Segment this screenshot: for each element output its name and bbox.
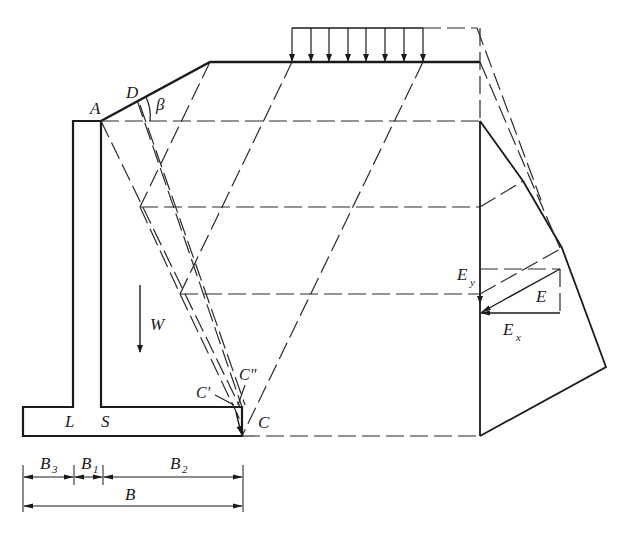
label-b3-sub: 3 xyxy=(51,463,58,475)
horizontal-construction-lines xyxy=(101,121,480,436)
label-ex-sub: x xyxy=(515,331,521,343)
label-b1: B xyxy=(81,454,92,473)
label-s: S xyxy=(101,412,110,431)
label-l: L xyxy=(64,412,74,431)
label-b3: B xyxy=(40,454,51,473)
label-e: E xyxy=(535,287,547,306)
retaining-wall-diagram: A D β W C' C" C L S E E y E x B 3 B 1 B … xyxy=(0,0,626,543)
force-vectors xyxy=(140,269,560,352)
label-b2-sub: 2 xyxy=(182,463,188,475)
label-d: D xyxy=(125,83,139,102)
label-a: A xyxy=(89,99,101,118)
label-ey-sub: y xyxy=(469,276,475,288)
label-c: C xyxy=(258,413,270,432)
surcharge-arrows xyxy=(292,28,423,61)
beta-angle-arc xyxy=(146,97,150,121)
label-beta: β xyxy=(155,95,165,114)
label-b1-sub: 1 xyxy=(93,463,99,475)
label-b2: B xyxy=(170,454,181,473)
force-polygon xyxy=(477,28,606,436)
label-c-prime: C' xyxy=(196,384,211,401)
label-ex: E xyxy=(502,320,514,339)
label-b-total: B xyxy=(125,485,136,504)
label-ey: E xyxy=(456,265,468,284)
label-w: W xyxy=(150,315,166,334)
label-c-double-prime: C" xyxy=(239,366,257,383)
e-arrow xyxy=(482,269,560,312)
surcharge-load xyxy=(292,28,477,61)
